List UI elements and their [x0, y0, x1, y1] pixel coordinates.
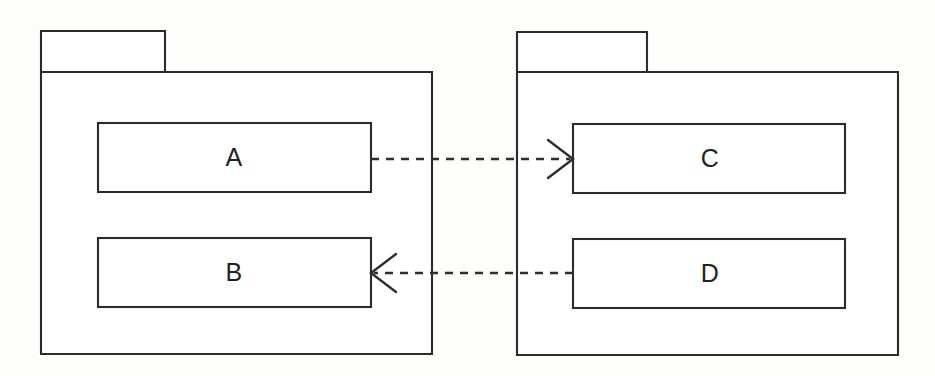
package-left-tab — [41, 31, 165, 72]
class-box-d-label: D — [701, 259, 720, 287]
package-right-tab — [517, 32, 647, 72]
package-right-body — [517, 72, 898, 355]
class-box-d[interactable]: D — [573, 239, 845, 308]
uml-package-diagram-canvas: A B C D — [0, 0, 935, 376]
package-left-body — [41, 72, 432, 354]
class-box-b[interactable]: B — [98, 238, 371, 307]
class-box-c[interactable]: C — [573, 124, 845, 193]
class-box-b-label: B — [225, 258, 242, 286]
class-box-a[interactable]: A — [98, 123, 371, 192]
diagram-svg-surface: A B C D — [0, 0, 935, 376]
class-box-a-label: A — [225, 143, 242, 171]
class-box-c-label: C — [701, 144, 720, 172]
